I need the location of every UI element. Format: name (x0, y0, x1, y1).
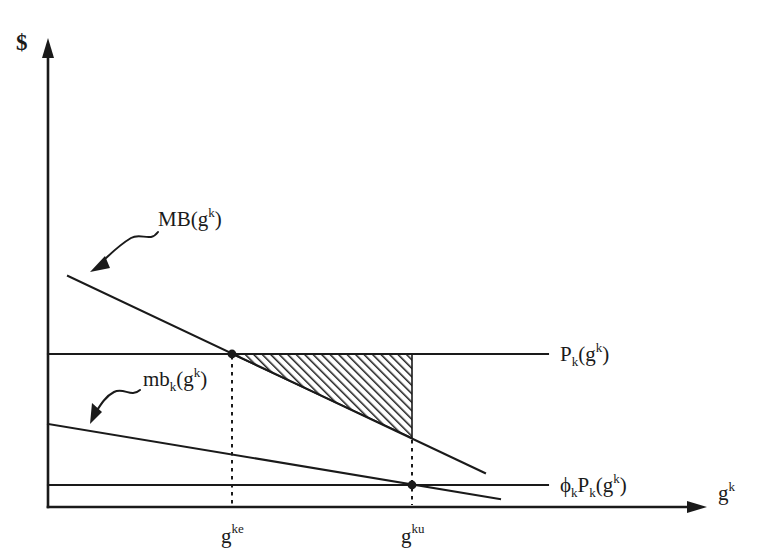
tick-label-g-ku: gku (401, 521, 425, 548)
label-price-phi-pk-phi: ϕ (560, 473, 571, 497)
x-axis-label: gk (718, 479, 736, 505)
label-price-phi-pk-p: P (578, 473, 590, 497)
tick-label-g-ke-base: g (221, 524, 232, 548)
label-price-pk-base: P (560, 342, 572, 366)
y-axis-label: $ (16, 30, 28, 55)
x-axis-label-base: g (718, 481, 729, 505)
pointer-arrow-mb-private (96, 390, 140, 412)
curve-mb-social (68, 276, 485, 473)
label-price-pk-mid: (g (578, 342, 596, 366)
label-mb-social: MB(gk) (158, 205, 222, 231)
label-mb-private-mid: (g (176, 367, 194, 391)
y-axis-arrow-icon (42, 38, 54, 58)
tick-label-g-ke-sup: ke (232, 521, 245, 536)
figure-canvas: $ gk MB(gk) mbk(gk) Pk(gk) ϕkPk(gk) gke … (0, 0, 757, 555)
label-mb-social-base: MB(g (158, 207, 209, 231)
label-price-phi-pk: ϕkPk(gk) (560, 471, 627, 500)
tick-label-g-ku-base: g (401, 524, 412, 548)
economics-diagram-figure: $ gk MB(gk) mbk(gk) Pk(gk) ϕkPk(gk) gke … (0, 0, 757, 555)
label-mb-private-close: ) (200, 367, 207, 391)
pointer-arrow-mb-social (101, 232, 158, 263)
label-mb-social-close: ) (215, 207, 222, 231)
curve-mb-private (48, 424, 500, 499)
tick-label-g-ku-sup: ku (412, 521, 426, 536)
tick-label-g-ke: gke (221, 521, 244, 548)
x-axis-label-sup: k (729, 479, 736, 494)
label-price-phi-pk-mid: (g (596, 473, 614, 497)
equilibrium-dot-g-ke (228, 350, 237, 359)
label-price-pk-close: ) (602, 342, 609, 366)
label-price-phi-pk-close: ) (620, 473, 627, 497)
equilibrium-dot-g-ku (408, 481, 417, 490)
label-mb-private: mbk(gk) (143, 365, 207, 394)
label-mb-private-base: mb (143, 367, 170, 391)
x-axis-arrow-icon (687, 501, 707, 513)
label-price-pk: Pk(gk) (560, 340, 609, 369)
